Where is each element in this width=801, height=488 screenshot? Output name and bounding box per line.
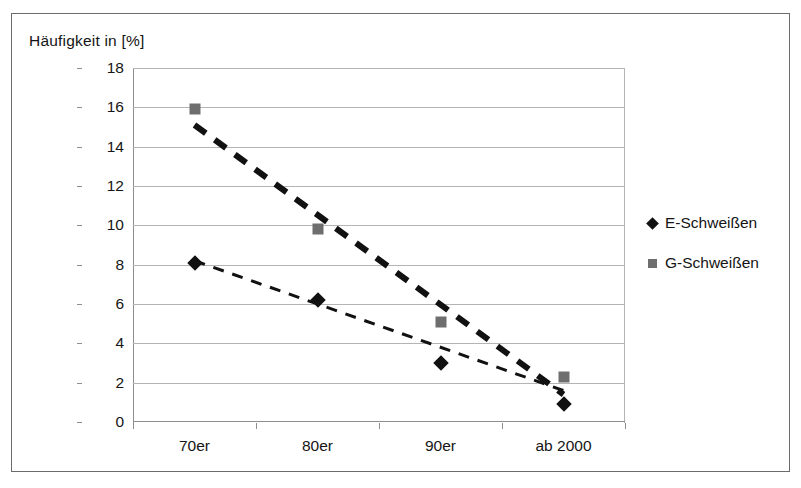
y-axis-tick-mark	[77, 304, 82, 305]
x-axis-tick-mark	[133, 423, 134, 429]
data-point[interactable]	[435, 316, 446, 327]
y-axis-tick-label: 2	[115, 374, 124, 392]
legend-item-e-schwei-en[interactable]: E-Schweißen	[646, 212, 786, 234]
series-trendlines	[133, 68, 625, 422]
y-axis-tick-label: 12	[107, 177, 124, 195]
y-axis-tick-mark	[77, 186, 82, 187]
y-axis-tick-mark	[77, 422, 82, 423]
trendline-e-schwei-en	[195, 261, 564, 391]
legend-item-label: G-Schweißen	[665, 254, 759, 272]
y-axis-tick-label: 8	[115, 256, 124, 274]
legend-item-g-schwei-en[interactable]: G-Schweißen	[646, 252, 786, 274]
square-marker-icon	[646, 259, 658, 268]
y-axis-tick-label: 18	[107, 59, 124, 77]
x-axis-tick-labels: 70er80er90erab 2000	[133, 437, 625, 461]
chart-figure: Häufigkeit in [%] 024681012141618 70er80…	[11, 13, 790, 472]
y-axis-tick-label: 4	[115, 334, 124, 352]
y-axis-tick-mark	[77, 343, 82, 344]
y-axis-tick-mark	[77, 107, 82, 108]
plot-area	[133, 68, 625, 422]
y-axis-tick-mark	[77, 147, 82, 148]
diamond-marker-icon	[646, 219, 658, 228]
x-axis-tick-mark	[379, 423, 380, 429]
y-axis-tick-mark	[77, 68, 82, 69]
y-axis-tick-labels: 024681012141618	[82, 68, 124, 422]
y-axis-tick-mark	[77, 383, 82, 384]
y-axis-tick-mark	[77, 225, 82, 226]
x-axis-tick-label: 80er	[302, 437, 333, 455]
x-axis-tick-mark	[625, 423, 626, 429]
x-axis-tick-mark	[256, 423, 257, 429]
y-axis-tick-label: 6	[115, 295, 124, 313]
y-axis-tick-mark	[77, 265, 82, 266]
x-axis-tick-marks	[133, 423, 625, 429]
data-point[interactable]	[558, 371, 569, 382]
data-point[interactable]	[312, 224, 323, 235]
chart-legend: E-SchweißenG-Schweißen	[646, 212, 786, 292]
y-axis-tick-label: 16	[107, 98, 124, 116]
legend-item-label: E-Schweißen	[665, 214, 757, 232]
x-axis-tick-label: 70er	[179, 437, 210, 455]
x-axis-tick-label: 90er	[425, 437, 456, 455]
x-axis-tick-label: ab 2000	[535, 437, 591, 455]
data-point[interactable]	[189, 104, 200, 115]
chart-axis-title: Häufigkeit in [%]	[29, 32, 144, 50]
y-axis-tick-label: 0	[115, 413, 124, 431]
trendline-g-schwei-en	[195, 125, 564, 394]
y-axis-tick-label: 10	[107, 216, 124, 234]
y-axis-tick-label: 14	[107, 138, 124, 156]
x-axis-tick-mark	[502, 423, 503, 429]
